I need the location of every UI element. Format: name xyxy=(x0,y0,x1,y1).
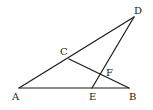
segment-CB xyxy=(69,59,129,88)
label-C: C xyxy=(60,46,68,57)
label-E: E xyxy=(89,91,96,102)
label-A: A xyxy=(11,91,20,102)
diagram-svg: A B C D E F xyxy=(0,0,153,110)
label-D: D xyxy=(134,5,142,16)
segments xyxy=(19,17,134,88)
geometry-diagram: A B C D E F xyxy=(0,0,153,110)
label-F: F xyxy=(106,67,113,78)
label-B: B xyxy=(129,91,136,102)
segment-AD xyxy=(19,17,134,88)
segment-DE xyxy=(92,17,134,88)
